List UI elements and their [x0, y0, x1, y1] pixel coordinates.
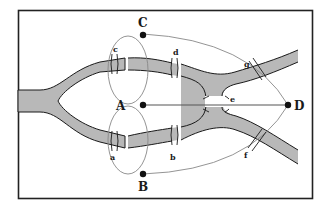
label-bridge-a: a — [110, 152, 115, 162]
label-bridge-c: c — [113, 44, 118, 54]
label-bridge-b: b — [170, 152, 176, 162]
node-c — [140, 32, 146, 38]
node-d — [285, 102, 291, 108]
label-node-c: C — [138, 16, 148, 30]
label-bridge-f: f — [244, 150, 248, 160]
node-b — [140, 171, 146, 177]
label-node-d: D — [294, 99, 304, 113]
label-node-a: A — [115, 99, 126, 113]
node-a — [140, 102, 146, 108]
label-bridge-g: g — [244, 59, 250, 69]
konigsberg-diagram: C A B D c d a b e f g — [0, 0, 330, 216]
label-bridge-e: e — [230, 94, 235, 104]
label-node-b: B — [138, 180, 148, 194]
label-bridge-d: d — [173, 47, 179, 57]
